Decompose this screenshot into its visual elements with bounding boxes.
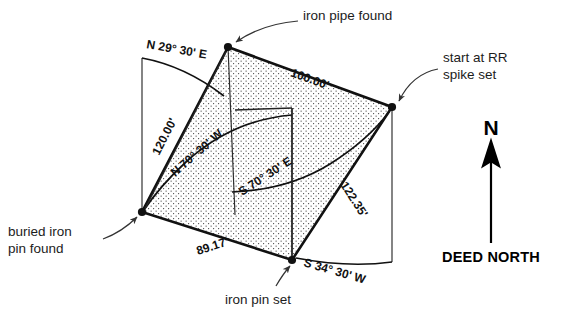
callout-iron-pipe-found: iron pipe found — [303, 8, 392, 23]
monument-dot-iron-pipe-found — [224, 43, 232, 51]
leader-iron-pin-set — [276, 266, 290, 286]
north-letter: N — [483, 116, 498, 139]
leader-iron-pipe-found — [236, 21, 298, 42]
distance-label-89: 89.17' — [195, 234, 231, 258]
monument-dot-buried-iron-pin — [138, 208, 146, 216]
callout-rr-spike-set-line1: start at RR — [443, 50, 508, 65]
callout-buried-iron-pin-line2: pin found — [8, 241, 64, 256]
survey-plat-figure: iron pipe found start at RR spike set bu… — [0, 0, 562, 320]
leader-buried-iron-pin — [103, 217, 137, 239]
bearing-label-n2930e: N 29° 30' E — [145, 37, 208, 61]
callout-rr-spike-set-line2: spike set — [443, 67, 497, 82]
callout-buried-iron-pin-line1: buried iron — [8, 224, 72, 239]
monument-dot-iron-pin-set — [288, 256, 296, 264]
parcel-area — [142, 47, 392, 260]
north-caption: DEED NORTH — [442, 249, 540, 265]
bearing-label-s3430w: S 34° 30' W — [302, 255, 368, 286]
north-arrow-head — [483, 141, 499, 166]
callout-iron-pin-set: iron pin set — [225, 292, 291, 307]
monument-dot-rr-spike-set — [388, 103, 396, 111]
leader-rr-spike-set — [399, 69, 438, 101]
distance-label-122: 122.35' — [337, 179, 370, 220]
